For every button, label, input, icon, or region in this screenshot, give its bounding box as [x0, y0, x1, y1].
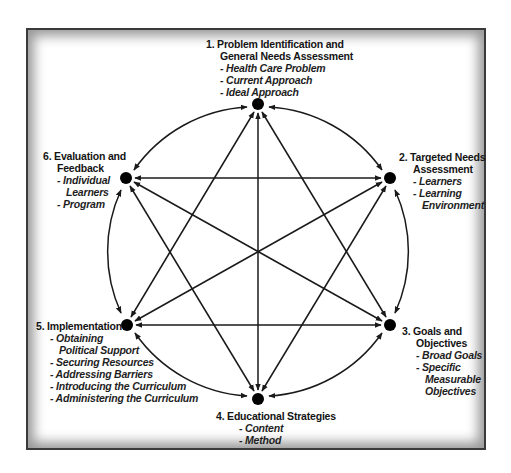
node-1: [252, 98, 264, 110]
step-5-title: 5. Implementation: [36, 320, 198, 332]
arc-1-2: [269, 107, 382, 170]
step-1-label: 1. Problem Identification and General Ne…: [206, 38, 353, 98]
step-5-item: - Securing Resources: [36, 356, 198, 368]
step-6-title: 6. Evaluation and: [43, 150, 126, 162]
step-3-title-cont: Objectives: [402, 337, 482, 349]
node-3: [384, 319, 396, 331]
step-3-item: - Broad Goals: [402, 349, 482, 361]
step-4-title: 4. Educational Strategies: [216, 410, 336, 422]
step-2-title-cont: Assessment: [399, 163, 485, 175]
step-3-label: 3. Goals and Objectives - Broad Goals - …: [402, 325, 482, 397]
step-2-label: 2. Targeted Needs Assessment - Learners …: [399, 151, 485, 211]
step-1-item: - Current Approach: [206, 74, 353, 86]
step-5-item: - Introducing the Curriculum: [36, 380, 198, 392]
step-3-item: Objectives: [402, 385, 482, 397]
step-5-item: - Obtaining: [36, 332, 198, 344]
step-5-item: - Administering the Curriculum: [36, 392, 198, 404]
node-2: [384, 172, 396, 184]
step-3-title: 3. Goals and: [402, 325, 482, 337]
node-4: [252, 393, 264, 405]
step-3-item: - Specific: [402, 361, 482, 373]
step-4-label: 4. Educational Strategies - Content - Me…: [216, 410, 336, 446]
step-6-title-cont: Feedback: [43, 162, 126, 174]
step-6-label: 6. Evaluation and Feedback - Individual …: [43, 150, 126, 210]
step-6-item: Learners: [43, 186, 126, 198]
step-4-item: - Content: [216, 422, 336, 434]
step-4-item: - Method: [216, 434, 336, 446]
step-6-item: - Individual: [43, 174, 126, 186]
step-6-item: - Program: [43, 198, 126, 210]
step-1-title-cont: General Needs Assessment: [206, 50, 353, 62]
step-2-item: Environment: [399, 199, 485, 211]
step-2-title: 2. Targeted Needs: [399, 151, 485, 163]
step-1-item: - Health Care Problem: [206, 62, 353, 74]
step-1-item: - Ideal Approach: [206, 86, 353, 98]
step-5-item: - Addressing Barriers: [36, 368, 198, 380]
step-5-label: 5. Implementation - Obtaining Political …: [36, 320, 198, 404]
step-2-item: - Learning: [399, 187, 485, 199]
step-3-item: Measurable: [402, 373, 482, 385]
arc-6-1: [134, 107, 247, 170]
step-1-title: 1. Problem Identification and: [206, 38, 353, 50]
step-2-item: - Learners: [399, 175, 485, 187]
arc-3-4: [269, 333, 382, 396]
step-5-item: Political Support: [36, 344, 198, 356]
